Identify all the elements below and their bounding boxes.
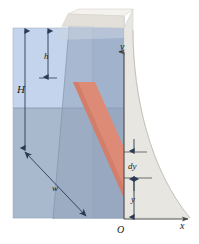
label-axis-y: y — [119, 41, 125, 52]
label-origin: O — [117, 224, 124, 235]
dam-crest-face — [62, 14, 124, 28]
label-y-height: y — [130, 194, 135, 204]
diagram-canvas: h H w y x O dy y — [0, 0, 199, 244]
label-H: H — [16, 83, 26, 95]
dam-pressure-diagram: h H w y x O dy y — [0, 0, 199, 244]
label-h: h — [44, 51, 49, 61]
dam-crest-shadow — [56, 26, 124, 40]
label-w: w — [52, 183, 58, 193]
label-dy: dy — [128, 161, 137, 171]
label-axis-x: x — [179, 220, 185, 231]
